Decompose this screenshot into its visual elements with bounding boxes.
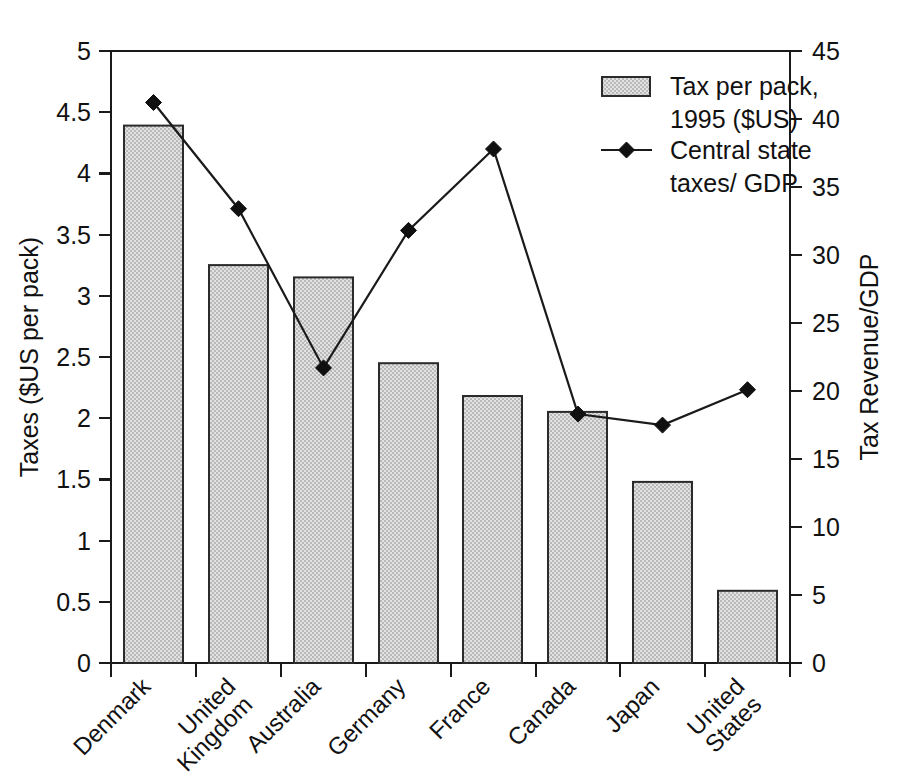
left-tick-label-6: 3	[77, 282, 91, 310]
right-tick-label-3: 15	[812, 445, 840, 473]
left-tick-label-7: 3.5	[56, 221, 91, 249]
left-tick-label-0: 0	[77, 649, 91, 677]
right-tick-label-9: 45	[812, 37, 840, 65]
legend-label-central-state-line2: taxes/ GDP	[670, 169, 798, 197]
left-tick-label-9: 4.5	[56, 98, 91, 126]
left-tick-label-8: 4	[77, 159, 91, 187]
left-tick-label-4: 2	[77, 404, 91, 432]
left-tick-label-5: 2.5	[56, 343, 91, 371]
bar-united-kingdom	[209, 265, 268, 663]
figure-container: 0 0.5 1 1.5 2 2.5 3 3.5 4 4.5 5 0 5	[0, 0, 901, 782]
bar-denmark	[124, 126, 183, 663]
legend-label-central-state-line1: Central state	[670, 136, 812, 164]
bar-canada	[548, 412, 607, 663]
bar-france	[463, 396, 522, 663]
legend-label-tax-per-pack-line1: Tax per pack,	[670, 72, 819, 100]
left-tick-label-1: 0.5	[56, 588, 91, 616]
right-tick-label-2: 10	[812, 513, 840, 541]
legend-label-tax-per-pack-line2: 1995 ($US)	[670, 105, 798, 133]
combo-chart: 0 0.5 1 1.5 2 2.5 3 3.5 4 4.5 5 0 5	[0, 0, 901, 782]
right-tick-label-1: 5	[812, 581, 826, 609]
left-axis-title: Taxes ($US per pack)	[15, 237, 43, 477]
right-tick-label-0: 0	[812, 649, 826, 677]
right-axis-title: Tax Revenue/GDP	[855, 253, 883, 460]
right-tick-label-4: 20	[812, 377, 840, 405]
left-tick-label-10: 5	[77, 37, 91, 65]
legend-swatch-bar-icon	[602, 77, 650, 96]
bar-united-states	[718, 591, 777, 663]
bar-japan	[633, 482, 692, 663]
right-tick-label-6: 30	[812, 241, 840, 269]
left-tick-label-2: 1	[77, 527, 91, 555]
right-tick-label-5: 25	[812, 309, 840, 337]
left-tick-label-3: 1.5	[56, 465, 91, 493]
right-tick-label-8: 40	[812, 105, 840, 133]
bar-germany	[379, 363, 438, 663]
right-tick-label-7: 35	[812, 173, 840, 201]
